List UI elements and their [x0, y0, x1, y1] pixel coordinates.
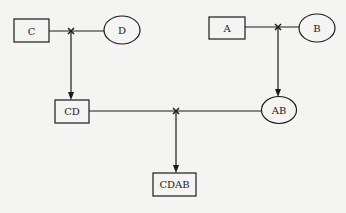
join-diagram: C D A B CD AB CDAB	[0, 0, 346, 213]
node-label-ab: AB	[271, 105, 287, 116]
join-cdab	[89, 108, 262, 173]
node-label-cdab: CDAB	[159, 179, 189, 190]
join-ab	[245, 24, 299, 97]
node-label-d: D	[118, 25, 126, 36]
node-label-cd: CD	[64, 106, 80, 117]
arrowhead-icon	[68, 92, 74, 100]
node-label-a: A	[222, 23, 231, 34]
node-label-b: B	[313, 23, 320, 34]
node-label-c: C	[28, 26, 36, 37]
arrowhead-icon	[275, 89, 281, 97]
arrowhead-icon	[173, 165, 179, 173]
join-cd	[49, 28, 104, 100]
